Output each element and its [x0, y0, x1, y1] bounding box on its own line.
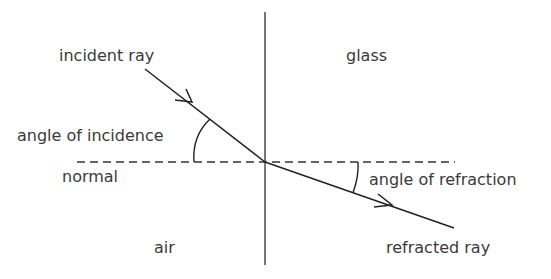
incident-ray-label: incident ray — [59, 46, 154, 65]
incident-arrow-icon — [175, 89, 192, 102]
angle-of-incidence-arc — [194, 119, 210, 162]
angle-of-refraction-arc — [353, 162, 358, 193]
air-label: air — [154, 238, 175, 257]
incident-ray-line — [145, 69, 265, 162]
glass-label: glass — [346, 46, 387, 65]
refracted-ray-label: refracted ray — [386, 238, 490, 257]
angle-of-refraction-label: angle of refraction — [369, 170, 517, 189]
angle-of-incidence-label: angle of incidence — [17, 126, 164, 145]
normal-label: normal — [62, 167, 118, 186]
refraction-diagram: incident ray glass angle of incidence no… — [0, 0, 551, 279]
